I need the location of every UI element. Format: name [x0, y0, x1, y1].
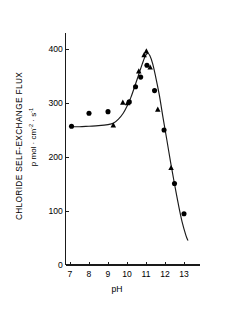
chart-figure: 0100200300400 78910111213 pH CHLORIDE SE… [0, 0, 231, 311]
fit-curve-path [72, 53, 188, 240]
data-point-triangle [111, 122, 117, 127]
y-tick-labels: 0100200300400 [48, 44, 63, 270]
x-tick-label: 8 [87, 269, 92, 279]
data-point-circle [138, 75, 143, 80]
data-point-triangle [168, 165, 174, 170]
x-axis-title: pH [112, 284, 123, 294]
y-axis-title: CHLORIDE SELF-EXCHANGE FLUX [14, 72, 24, 220]
x-tick-label: 7 [68, 269, 73, 279]
y-tick-label: 100 [48, 206, 63, 216]
data-point-triangle [120, 100, 126, 105]
data-point-circle [69, 124, 74, 129]
data-point-circle [152, 88, 157, 93]
data-point-circle [86, 111, 91, 116]
y-axis-units-label: p mol · cm-2 · s-1 [28, 108, 38, 166]
y-tick-label: 300 [48, 98, 63, 108]
x-tick-label: 10 [122, 269, 132, 279]
y-tick-label: 200 [48, 152, 63, 162]
data-point-circle [144, 63, 149, 68]
data-point-circle [105, 109, 110, 114]
x-tick-label: 12 [160, 269, 170, 279]
y-axis-group: 0100200300400 [48, 33, 69, 270]
data-point-circle [181, 211, 186, 216]
data-point-triangle [155, 107, 161, 112]
data-series-triangles [111, 48, 174, 170]
data-series-circles [69, 63, 187, 217]
y-tick-label: 400 [48, 44, 63, 54]
x-tick-label: 9 [106, 269, 111, 279]
x-tick-label: 11 [142, 269, 151, 279]
chart-plot-area: 0100200300400 78910111213 pH CHLORIDE SE… [0, 0, 231, 311]
x-tick-labels: 78910111213 [68, 269, 189, 279]
data-point-circle [133, 84, 138, 89]
data-point-triangle [144, 48, 150, 53]
x-axis-group: 78910111213 [66, 262, 200, 279]
x-tick-label: 13 [179, 269, 189, 279]
data-point-circle [162, 127, 167, 132]
y-tick-label: 0 [58, 260, 63, 270]
data-point-circle [172, 181, 177, 186]
